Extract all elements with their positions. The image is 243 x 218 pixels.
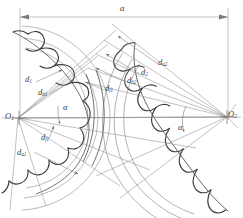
callout-label-d2: d2 [141,68,148,77]
diagram-canvas [0,0,243,218]
left-gear-tooth-profile [2,31,90,193]
alpha-angle-label-right: α [178,123,182,132]
callout-label-db2: db2 [127,76,136,85]
gear-mesh-figure: a O1 O2 α α d1 db1 df1 da1 da2 d2 db2 df… [0,0,243,218]
center-distance-dimension [20,8,228,120]
center-label-o2: O2 [228,110,237,119]
alpha-angle-label-left: α [63,103,67,112]
callout-label-da1: da1 [17,148,26,157]
center-label-o1: O1 [5,112,14,121]
callout-label-df2: df1 [105,84,113,93]
dimension-label-a: a [120,4,125,13]
o1-radial-lines [10,30,227,210]
right-gear-outer-flank [125,33,229,218]
callout-label-da2: da2 [158,58,167,67]
callout-label-d1: d1 [25,75,32,84]
callout-label-db1: db1 [38,88,47,97]
callout-label-df1-left: df1 [41,133,49,142]
right-gear-tooth-profile [109,32,226,218]
